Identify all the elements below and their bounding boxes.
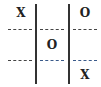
- cell-r1c3[interactable]: O: [73, 6, 97, 20]
- separator-row2-middle: [40, 60, 64, 62]
- vertical-divider-right: [68, 4, 70, 84]
- separator-row2-right: [73, 60, 97, 62]
- separator-row2-left: [8, 60, 32, 62]
- cell-r2c2[interactable]: O: [40, 38, 64, 52]
- cell-r3c3[interactable]: X: [73, 68, 97, 82]
- separator-row1-middle: [40, 29, 64, 31]
- separator-row1-right: [73, 29, 97, 31]
- separator-row1-left: [8, 29, 32, 31]
- vertical-divider-left: [35, 4, 37, 84]
- cell-r1c1[interactable]: X: [9, 6, 33, 20]
